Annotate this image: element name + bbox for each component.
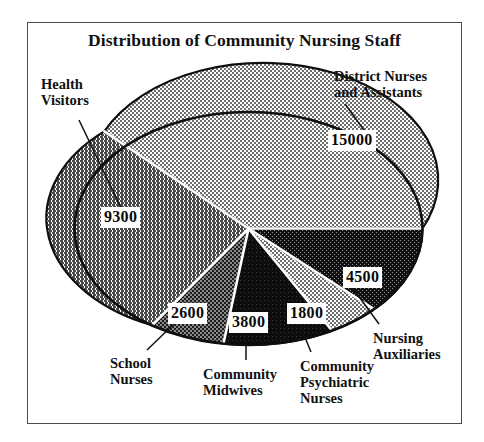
slice-label-nursing-auxiliaries: Nursing Auxiliaries xyxy=(373,330,441,362)
pie-slices xyxy=(46,63,438,345)
slice-value-community-psychiatric-nurses: 1800 xyxy=(287,303,326,324)
slice-label-community-psychiatric-nurses: Community Psychiatric Nurses xyxy=(300,358,374,407)
slice-label-school-nurses: School Nurses xyxy=(110,355,153,387)
slice-label-community-midwives: Community Midwives xyxy=(203,366,277,398)
slice-value-district-nurses: 15000 xyxy=(328,130,376,151)
slice-label-health-visitors: Health Visitors xyxy=(41,76,89,108)
figure-canvas: Distribution of Community Nursing Staff xyxy=(0,0,484,442)
slice-value-school-nurses: 2600 xyxy=(168,303,207,324)
slice-value-nursing-auxiliaries: 4500 xyxy=(343,267,382,288)
slice-value-community-midwives: 3800 xyxy=(229,312,268,333)
slice-value-health-visitors: 9300 xyxy=(101,207,140,228)
slice-label-district-nurses: District Nurses and Assistants xyxy=(334,68,427,100)
